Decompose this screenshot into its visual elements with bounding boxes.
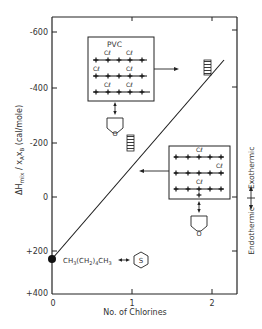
hexane-label: CH3(CH2)4CH3: [63, 257, 112, 266]
y-axis-title-sub: mix: [18, 172, 25, 184]
x-axis-title: No. of Chlorines: [103, 308, 167, 317]
cl-label: Cℓ: [104, 49, 111, 56]
chart-canvas: -600 -400 -200 0 +200 +400 0 1 2 No. of …: [0, 0, 262, 329]
x-tick-labels: 0 1 2: [50, 299, 214, 308]
x-tick-label: 2: [209, 299, 214, 308]
hexane-part: CH: [63, 257, 73, 265]
cl-label: Cℓ: [216, 162, 223, 169]
exothermic-label: Exothermic: [247, 147, 256, 189]
cl-label: Cℓ: [196, 178, 203, 185]
y-tick-label: -600: [30, 28, 48, 37]
pvc-structure-box: PVC Cℓ Cℓ Cℓ Cℓ Cℓ Cℓ: [88, 37, 154, 101]
monochloro-structure-box: Cℓ Cℓ Cℓ: [169, 146, 230, 199]
data-marker-pvc: [204, 60, 211, 75]
hexane-sub: 3: [109, 260, 112, 266]
pvc-title: PVC: [107, 40, 122, 49]
y-axis-title: ΔHmix / xAxB (cal/mole): [15, 105, 25, 195]
hexane-part: (CH: [76, 257, 89, 265]
x-tick-label: 0: [50, 299, 55, 308]
solvent-hexagon-icon: S: [134, 252, 148, 268]
hexane-solvent-arrow-icon: [118, 258, 130, 261]
pvc-arrow-icon: [154, 67, 179, 71]
y-axis-title-rest: / x: [15, 160, 24, 173]
cl-label: Cℓ: [126, 81, 133, 88]
right-axis-labels: Exothermic Endothermic: [247, 147, 256, 255]
y-tick-labels: -600 -400 -200 0 +200 +400: [26, 28, 48, 298]
y-tick-label: +400: [26, 289, 48, 298]
pvc-thf-interaction-arrow-icon: [113, 102, 116, 115]
thf-o-label: O: [112, 130, 117, 138]
thf-o-label: O: [196, 230, 201, 238]
y-axis-title-main: ΔH: [15, 184, 24, 196]
data-marker-monochloro: [127, 135, 134, 151]
cl-label: Cℓ: [104, 81, 111, 88]
thf-ring-icon: O: [191, 216, 207, 238]
cl-label: Cℓ: [126, 65, 133, 72]
svg-text:ΔHmix / xAxB (cal/mole): ΔHmix / xAxB (cal/mole): [15, 105, 25, 195]
endothermic-label: Endothermic: [247, 207, 256, 255]
data-point-hexane: [48, 255, 56, 263]
y-axis-title-units: (cal/mole): [15, 105, 24, 148]
cl-label: Cℓ: [126, 49, 133, 56]
solvent-s-label: S: [139, 257, 144, 265]
y-tick-label: -400: [30, 84, 48, 93]
cl-label: Cℓ: [196, 146, 203, 153]
hexane-part: CH: [98, 257, 108, 265]
svg-text:CH3(CH2)4CH3: CH3(CH2)4CH3: [63, 257, 112, 266]
x-tick-label: 1: [129, 299, 134, 308]
monochloro-thf-interaction-arrow-icon: [197, 201, 200, 213]
y-tick-label: -200: [30, 139, 48, 148]
monochloro-arrow-icon: [139, 169, 169, 173]
y-tick-label: 0: [43, 193, 48, 202]
thf-ring-icon: O: [107, 118, 123, 138]
y-tick-label: +200: [26, 247, 48, 256]
cl-label: Cℓ: [93, 65, 100, 72]
